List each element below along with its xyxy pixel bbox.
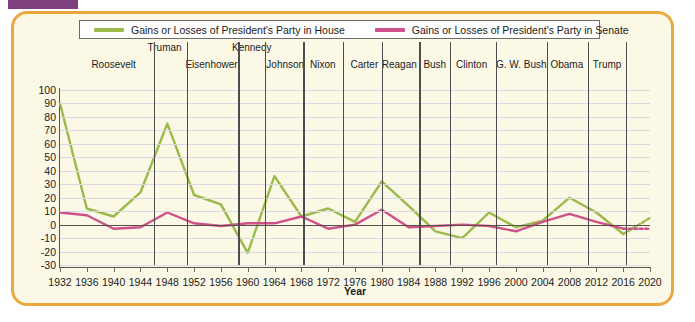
gridline-y-90 — [60, 103, 650, 104]
president-divider-johnson — [303, 42, 304, 265]
president-divider-nixon — [343, 42, 344, 265]
x-tick-mark — [301, 267, 302, 272]
legend-label-senate: Gains or Losses of President's Party in … — [412, 24, 629, 36]
x-tick-mark — [596, 267, 597, 272]
legend-label-house: Gains or Losses of President's Party in … — [131, 24, 345, 36]
y-tick-label: 20 — [44, 192, 56, 204]
gridline-y-30 — [60, 184, 650, 185]
y-tick-label: 50 — [44, 151, 56, 163]
gridline-y-0 — [60, 225, 650, 226]
series-line-house-projected — [623, 218, 650, 234]
president-divider-g-w-bush — [547, 42, 548, 265]
president-label-bush: Bush — [423, 59, 446, 70]
president-label-eisenhower: Eisenhower — [185, 59, 237, 70]
y-tick-label: 80 — [44, 111, 56, 123]
gridline-y-40 — [60, 171, 650, 172]
x-tick-mark — [650, 267, 651, 272]
x-tick-mark — [328, 267, 329, 272]
gridline-y--10 — [60, 238, 650, 239]
x-tick-mark — [382, 267, 383, 272]
y-tick-label: -30 — [41, 259, 56, 271]
president-label-obama: Obama — [550, 59, 583, 70]
president-divider-bush — [450, 42, 451, 265]
president-label-johnson: Johnson — [266, 59, 304, 70]
y-tick-label: 100 — [38, 84, 56, 96]
president-divider-trump — [626, 42, 627, 265]
x-tick-mark — [570, 267, 571, 272]
plot-wrapper: Gains or Losses of President's Party in … — [14, 14, 671, 303]
x-tick-mark — [543, 267, 544, 272]
gridline-y-100 — [60, 90, 650, 91]
purple-marker-bar — [8, 0, 78, 9]
president-divider-carter — [382, 42, 383, 265]
x-tick-mark — [623, 267, 624, 272]
president-divider-obama — [588, 42, 589, 265]
y-tick-label: 10 — [44, 205, 56, 217]
figure-container: Gains or Losses of President's Party in … — [11, 11, 674, 306]
gridline-y-10 — [60, 211, 650, 212]
x-tick-mark — [462, 267, 463, 272]
x-axis-title: Year — [60, 285, 650, 297]
president-divider-clinton — [496, 42, 497, 265]
x-tick-mark — [140, 267, 141, 272]
y-tick-label: 70 — [44, 124, 56, 136]
y-tick-label: 60 — [44, 138, 56, 150]
gridline-y-50 — [60, 157, 650, 158]
y-tick-label: -10 — [41, 232, 56, 244]
president-label-reagan: Reagan — [382, 59, 417, 70]
y-tick-label: 40 — [44, 165, 56, 177]
legend-swatch-senate — [375, 28, 405, 32]
gridline-y-70 — [60, 130, 650, 131]
x-tick-mark — [275, 267, 276, 272]
x-tick-mark — [87, 267, 88, 272]
x-tick-mark — [114, 267, 115, 272]
x-tick-mark — [409, 267, 410, 272]
president-divider-truman — [187, 42, 188, 265]
president-label-truman: Truman — [148, 42, 182, 53]
x-tick-mark — [248, 267, 249, 272]
y-tick-label: 0 — [50, 219, 56, 231]
president-label-g-w-bush: G. W. Bush — [496, 59, 547, 70]
gridline-y-20 — [60, 198, 650, 199]
y-tick-label: 90 — [44, 97, 56, 109]
series-line-house — [60, 104, 623, 253]
gridline-y--20 — [60, 252, 650, 253]
plot-area: 1009080706050403020100-10-20-30193219361… — [60, 90, 650, 265]
president-label-carter: Carter — [350, 59, 378, 70]
gridline-y--30 — [60, 265, 650, 266]
y-tick-label: 30 — [44, 178, 56, 190]
x-tick-mark — [489, 267, 490, 272]
president-divider-kennedy — [265, 42, 266, 265]
x-tick-mark — [221, 267, 222, 272]
president-label-roosevelt: Roosevelt — [91, 59, 135, 70]
x-tick-mark — [167, 267, 168, 272]
legend-swatch-house — [94, 28, 124, 32]
president-label-clinton: Clinton — [456, 59, 487, 70]
legend-item-house: Gains or Losses of President's Party in … — [94, 24, 345, 36]
gridline-y-80 — [60, 117, 650, 118]
gridline-y-60 — [60, 144, 650, 145]
y-tick-label: -20 — [41, 246, 56, 258]
x-tick-mark — [194, 267, 195, 272]
chart-legend: Gains or Losses of President's Party in … — [79, 20, 600, 39]
president-label-nixon: Nixon — [310, 59, 336, 70]
x-tick-mark — [355, 267, 356, 272]
x-tick-mark — [60, 267, 61, 272]
president-divider-roosevelt — [154, 42, 155, 265]
president-label-trump: Trump — [593, 59, 622, 70]
president-divider-reagan — [419, 42, 420, 265]
x-tick-mark — [435, 267, 436, 272]
x-tick-mark — [516, 267, 517, 272]
president-divider-eisenhower — [238, 42, 239, 265]
legend-item-senate: Gains or Losses of President's Party in … — [375, 24, 629, 36]
